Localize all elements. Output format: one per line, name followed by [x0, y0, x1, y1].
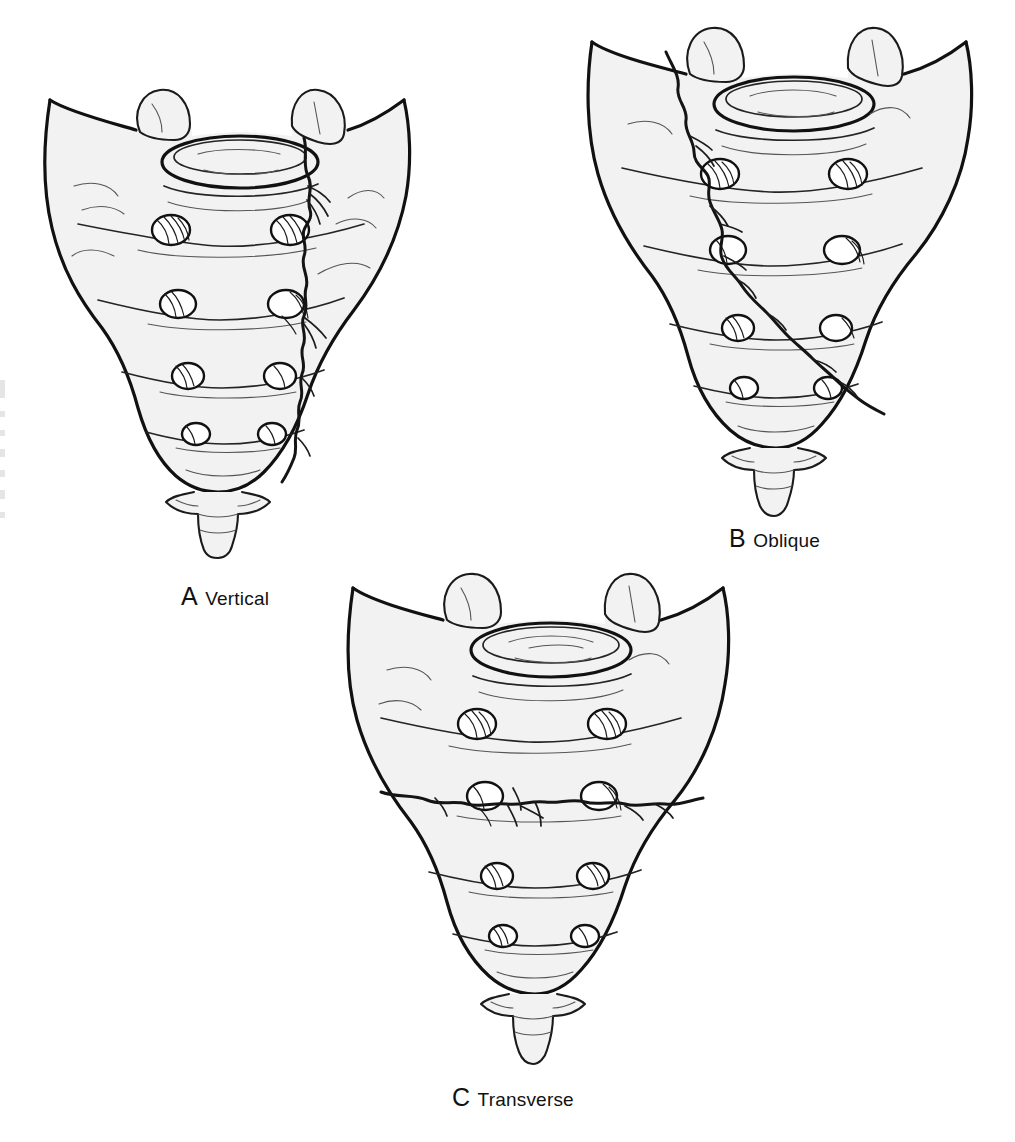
superior-articular-process-right: [605, 574, 660, 632]
panel-transverse-fracture: [325, 560, 745, 1070]
coccyx: [166, 492, 270, 558]
sacral-foramen-right-s3: [264, 363, 296, 389]
scan-edge-artifacts: [0, 380, 8, 520]
sacral-foramen-right-s2: [581, 782, 617, 810]
panel-vertical-fracture: [18, 78, 438, 558]
coccyx: [722, 448, 826, 516]
caption-letter-a: A: [181, 582, 198, 610]
sacral-foramen-right-s2: [268, 290, 304, 318]
caption-panel-c: CTransverse: [452, 1085, 574, 1110]
caption-label-b: Oblique: [753, 530, 820, 551]
superior-articular-process-left: [137, 90, 190, 140]
superior-articular-process-right: [848, 28, 903, 86]
sacral-foramen-right-s2: [824, 236, 860, 264]
sacral-foramen-right-s3: [577, 863, 609, 889]
caption-panel-b: BOblique: [729, 526, 820, 551]
sacral-foramen-left-s2: [710, 236, 746, 264]
caption-panel-a: AVertical: [181, 584, 269, 609]
figure-canvas: AVertical BOblique CTransverse: [0, 0, 1015, 1142]
coccyx: [481, 994, 585, 1064]
caption-label-c: Transverse: [478, 1089, 574, 1110]
caption-label-a: Vertical: [205, 588, 269, 609]
s1-superior-endplate: [162, 136, 318, 188]
caption-letter-c: C: [452, 1083, 471, 1111]
superior-articular-process-left: [444, 574, 501, 628]
panel-oblique-fracture: [570, 18, 990, 518]
caption-letter-b: B: [729, 524, 746, 552]
superior-articular-process-left: [687, 28, 744, 82]
s1-superior-endplate: [471, 623, 631, 677]
s1-superior-endplate: [714, 77, 874, 131]
sacral-foramen-right-s3: [820, 315, 852, 341]
